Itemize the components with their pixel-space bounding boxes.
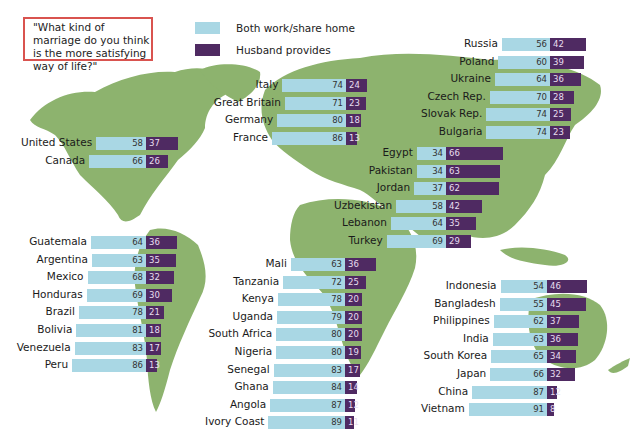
bar-both-work: 74 (282, 79, 346, 92)
country-label: Ghana (234, 380, 268, 392)
country-label: Lebanon (342, 216, 387, 228)
country-label: Venezuela (17, 341, 71, 353)
bar-husband-provides: 19 (345, 346, 361, 359)
bar-row-lebanon: Lebanon6435 (391, 217, 476, 230)
country-label: Russia (464, 37, 498, 49)
bar-both-work: 78 (278, 293, 345, 306)
bar-both-work: 63 (493, 333, 547, 346)
value-both-work: 60 (536, 57, 547, 67)
value-husband-provides: 35 (449, 218, 460, 228)
bar-husband-provides: 35 (146, 254, 176, 267)
country-label: Germany (225, 113, 273, 125)
country-label: South Korea (423, 349, 487, 361)
value-both-work: 54 (533, 281, 544, 291)
bar-row-egypt: Egypt3466 (417, 147, 503, 160)
value-husband-provides: 20 (348, 294, 359, 304)
country-label: Egypt (382, 146, 412, 158)
legend-item-both: Both work/share home (195, 17, 355, 39)
bar-row-great-britain: Great Britain7123 (285, 97, 366, 110)
country-label: Philippines (433, 314, 490, 326)
bar-row-south-africa: South Africa8020 (276, 328, 362, 341)
bar-husband-provides: 36 (547, 333, 578, 346)
bar-husband-provides: 14 (345, 381, 357, 394)
bar-both-work: 65 (491, 350, 547, 363)
bar-row-bolivia: Bolivia8118 (76, 324, 161, 337)
bar-both-work: 87 (270, 399, 345, 412)
bar-row-philippines: Philippines6237 (494, 315, 579, 328)
country-label: Slovak Rep. (421, 107, 482, 119)
value-both-work: 74 (536, 127, 547, 137)
bar-row-honduras: Honduras6930 (87, 289, 172, 302)
bar-row-angola: Angola8712 (270, 399, 355, 412)
value-husband-provides: 34 (550, 351, 561, 361)
value-husband-provides: 45 (550, 299, 561, 309)
bar-row-ivory-coast: Ivory Coast8911 (268, 416, 354, 429)
value-husband-provides: 23 (349, 98, 360, 108)
bar-both-work: 60 (498, 56, 550, 69)
bar-row-poland: Poland6039 (498, 56, 583, 69)
legend-swatch-both (195, 22, 220, 34)
bar-husband-provides: 8 (547, 403, 554, 416)
bar-row-south-korea: South Korea6534 (491, 350, 576, 363)
value-both-work: 74 (332, 80, 343, 90)
country-label: Uganda (233, 310, 274, 322)
value-both-work: 68 (132, 272, 143, 282)
value-husband-provides: 8 (550, 404, 555, 414)
value-husband-provides: 24 (349, 80, 360, 90)
country-label: Brazil (46, 305, 75, 317)
value-both-work: 69 (432, 236, 443, 246)
bar-row-argentina: Argentina6335 (92, 254, 176, 267)
bar-both-work: 34 (417, 165, 446, 178)
bar-both-work: 62 (494, 315, 547, 328)
value-both-work: 66 (132, 156, 143, 166)
value-both-work: 58 (132, 138, 143, 148)
country-label: Pakistan (369, 164, 413, 176)
bar-husband-provides: 42 (446, 200, 482, 213)
bar-husband-provides: 12 (345, 399, 355, 412)
bar-both-work: 55 (500, 298, 547, 311)
bar-husband-provides: 36 (550, 73, 581, 86)
bar-row-guatemala: Guatemala6436 (91, 236, 177, 249)
bar-both-work: 91 (469, 403, 547, 416)
bar-both-work: 58 (396, 200, 446, 213)
value-husband-provides: 13 (149, 360, 160, 370)
bar-row-turkey: Turkey6929 (387, 235, 471, 248)
value-both-work: 80 (331, 329, 342, 339)
bar-both-work: 78 (79, 306, 146, 319)
country-label: Italy (256, 78, 279, 90)
country-label: Indonesia (446, 279, 497, 291)
country-label: South Africa (208, 327, 272, 339)
bar-husband-provides: 32 (146, 271, 174, 284)
bar-row-ghana: Ghana8414 (273, 381, 357, 394)
bar-row-ukraine: Ukraine6436 (495, 73, 581, 86)
value-both-work: 87 (533, 387, 544, 397)
bar-both-work: 89 (268, 416, 345, 429)
bar-husband-provides: 26 (146, 155, 168, 168)
bar-both-work: 86 (272, 132, 346, 145)
country-label: Ukraine (450, 72, 491, 84)
value-husband-provides: 42 (553, 39, 564, 49)
bar-husband-provides: 36 (345, 258, 376, 271)
bar-row-canada: Canada6626 (89, 155, 168, 168)
value-both-work: 86 (132, 360, 143, 370)
value-both-work: 87 (331, 400, 342, 410)
value-both-work: 78 (331, 294, 342, 304)
bar-row-peru: Peru8613 (72, 359, 157, 372)
value-husband-provides: 25 (348, 277, 359, 287)
bar-husband-provides: 20 (345, 293, 362, 306)
value-husband-provides: 28 (553, 92, 564, 102)
legend: Both work/share home Husband provides (195, 17, 355, 61)
bar-row-nigeria: Nigeria8019 (276, 346, 361, 359)
country-label: Argentina (37, 253, 88, 265)
bar-both-work: 34 (417, 147, 446, 160)
bar-husband-provides: 46 (547, 280, 587, 293)
value-husband-provides: 25 (553, 109, 564, 119)
survey-question-box: "What kind of marriage do you think is t… (23, 17, 153, 61)
country-label: Tanzania (233, 275, 279, 287)
bar-row-venezuela: Venezuela8317 (75, 342, 161, 355)
value-husband-provides: 32 (550, 369, 561, 379)
bar-row-uganda: Uganda7920 (277, 311, 362, 324)
country-label: Bulgaria (439, 125, 483, 137)
bar-husband-provides: 12 (547, 386, 557, 399)
bar-both-work: 79 (277, 311, 345, 324)
